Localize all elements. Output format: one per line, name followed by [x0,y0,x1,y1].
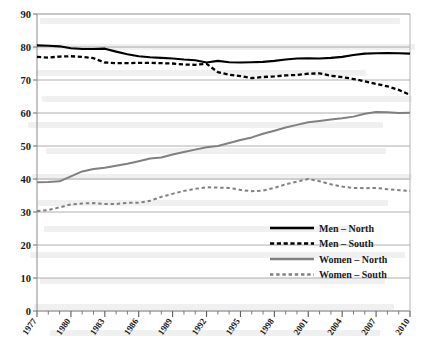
x-axis-ticks [37,311,410,317]
x-axis-tick-label: 1977 [20,316,39,337]
x-axis-tick-label: 2001 [291,316,310,337]
x-axis-tick-label: 2010 [393,316,412,337]
y-axis-tick-label: 60 [21,108,32,119]
x-axis-labels: 1977198019831986198919921995199820012004… [20,316,412,337]
x-axis-tick-label: 1998 [257,316,276,337]
y-axis-tick-label: 80 [21,42,32,53]
legend-label-1: Men – South [319,238,374,249]
y-axis-tick-label: 10 [21,273,32,284]
y-axis-labels: 0102030405060708090 [21,9,38,317]
x-axis-tick-label: 1980 [54,316,73,337]
y-axis-tick-label: 20 [21,240,32,251]
x-axis-tick-label: 1983 [88,316,107,337]
x-axis-tick-label: 1995 [224,316,243,337]
line-chart: 0102030405060708090 19771980198319861989… [0,0,432,344]
x-axis-tick-label: 2004 [325,316,344,337]
series-line-3 [37,179,410,211]
y-axis-tick-label: 0 [26,306,31,317]
legend-label-3: Women – South [319,269,387,280]
legend: Men – NorthMen – SouthWomen – NorthWomen… [270,223,388,281]
y-axis-tick-label: 70 [21,75,32,86]
data-series-group [37,45,410,211]
x-axis-tick-label: 1989 [156,316,175,337]
x-axis-tick-label: 1992 [190,316,209,337]
legend-label-2: Women – North [319,254,388,265]
x-axis-tick-label: 2007 [359,316,378,337]
x-axis-tick-label: 1986 [122,316,141,337]
chart-canvas: 0102030405060708090 19771980198319861989… [0,0,432,344]
y-axis-tick-label: 90 [21,9,32,20]
y-axis-tick-label: 40 [21,174,32,185]
y-axis-tick-label: 50 [21,141,32,152]
series-line-2 [37,112,410,182]
series-line-0 [37,45,410,62]
y-axis-tick-label: 30 [21,207,32,218]
legend-label-0: Men – North [319,223,374,234]
